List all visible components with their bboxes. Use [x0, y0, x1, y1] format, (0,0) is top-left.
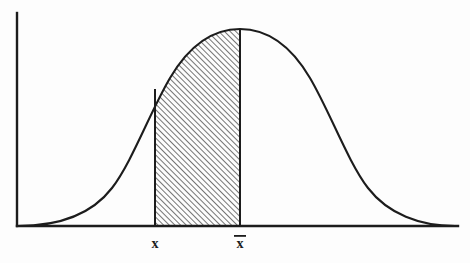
- x-bar-overline-icon: [234, 235, 246, 237]
- normal-curve-figure: x x: [0, 0, 470, 263]
- axis-label-x-bar: x: [237, 236, 244, 251]
- figure-canvas: x x: [0, 0, 470, 263]
- axis-label-x: x: [152, 236, 159, 251]
- shaded-area-under-curve: [155, 20, 240, 226]
